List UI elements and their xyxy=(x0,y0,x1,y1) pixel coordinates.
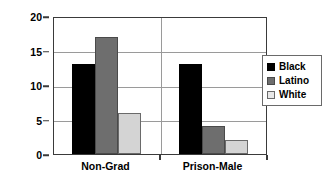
legend-item-white[interactable]: White xyxy=(267,88,317,101)
y-axis-tick-label: 5 xyxy=(36,115,42,127)
bar-black-prison-male xyxy=(179,64,202,154)
y-axis-tick-label: 10 xyxy=(30,80,42,92)
bar-white-prison-male xyxy=(225,140,248,154)
bar-latino-non-grad xyxy=(95,37,118,154)
legend-swatch-icon xyxy=(267,77,275,85)
bar-latino-prison-male xyxy=(202,126,225,154)
y-axis-tick-label: 0 xyxy=(36,149,42,161)
x-axis-tick-mark xyxy=(159,155,161,160)
legend-item-label: Black xyxy=(279,62,306,72)
y-axis: 05101520 xyxy=(0,0,53,183)
plot-area xyxy=(53,17,267,155)
legend-swatch-icon xyxy=(267,63,275,71)
legend-item-label: White xyxy=(279,90,306,100)
gridline xyxy=(54,52,266,53)
y-axis-tick-mark xyxy=(43,16,49,18)
x-axis-category-label: Prison-Male xyxy=(183,160,243,172)
bar-white-non-grad xyxy=(118,113,141,154)
chart-legend: BlackLatinoWhite xyxy=(262,55,322,106)
y-axis-tick-mark xyxy=(43,154,49,156)
x-axis-category-label: Non-Grad xyxy=(81,160,129,172)
bar-black-non-grad xyxy=(72,64,95,154)
legend-item-label: Latino xyxy=(279,76,309,86)
bar-chart: 05101520 Non-GradPrison-Male BlackLatino… xyxy=(0,0,327,183)
x-axis-tick-mark xyxy=(266,155,268,160)
y-axis-tick-mark xyxy=(43,120,49,122)
y-axis-tick-mark xyxy=(43,85,49,87)
legend-item-latino[interactable]: Latino xyxy=(267,74,317,87)
y-axis-tick-label: 20 xyxy=(30,11,42,23)
category-separator xyxy=(161,18,162,154)
y-axis-tick-label: 15 xyxy=(30,46,42,58)
y-axis-tick-mark xyxy=(43,51,49,53)
legend-item-black[interactable]: Black xyxy=(267,60,317,73)
legend-swatch-icon xyxy=(267,91,275,99)
